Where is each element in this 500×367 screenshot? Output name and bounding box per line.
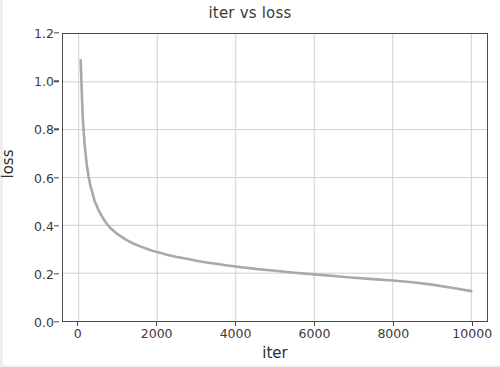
x-axis-label: iter xyxy=(62,344,488,362)
x-tick-label: 0 xyxy=(74,326,82,341)
x-tick-mark xyxy=(393,321,394,326)
y-tick-mark xyxy=(54,80,59,81)
y-tick-label: 0.4 xyxy=(24,218,54,233)
y-tick-label: 0.0 xyxy=(24,315,54,330)
y-tick-mark xyxy=(54,273,59,274)
x-tick-mark xyxy=(156,321,157,326)
y-axis-tick-labels: 0.00.20.40.60.81.01.2 xyxy=(22,33,54,322)
x-tick-label: 8000 xyxy=(377,326,409,341)
loss-curve xyxy=(63,34,487,321)
x-tick-mark xyxy=(77,321,78,326)
y-tick-mark xyxy=(54,32,59,33)
x-tick-label: 2000 xyxy=(141,326,173,341)
x-axis-tick-labels: 0200040006000800010000 xyxy=(62,326,488,346)
y-tick-mark xyxy=(54,321,59,322)
y-tick-label: 1.2 xyxy=(24,26,54,41)
y-tick-mark xyxy=(54,129,59,130)
y-tick-label: 0.8 xyxy=(24,122,54,137)
plot-area xyxy=(62,33,488,322)
y-tick-mark xyxy=(54,177,59,178)
y-tick-label: 1.0 xyxy=(24,74,54,89)
x-tick-label: 10000 xyxy=(452,326,492,341)
x-tick-mark xyxy=(472,321,473,326)
y-axis-label: loss xyxy=(0,134,17,194)
chart-title: iter vs loss xyxy=(0,4,500,22)
x-tick-mark xyxy=(235,321,236,326)
x-tick-mark xyxy=(314,321,315,326)
x-tick-label: 6000 xyxy=(299,326,331,341)
x-tick-label: 4000 xyxy=(220,326,252,341)
y-tick-mark xyxy=(54,225,59,226)
y-tick-label: 0.2 xyxy=(24,266,54,281)
chart-figure: iter vs loss loss 0.00.20.40.60.81.01.2 … xyxy=(0,0,500,367)
y-tick-label: 0.6 xyxy=(24,170,54,185)
